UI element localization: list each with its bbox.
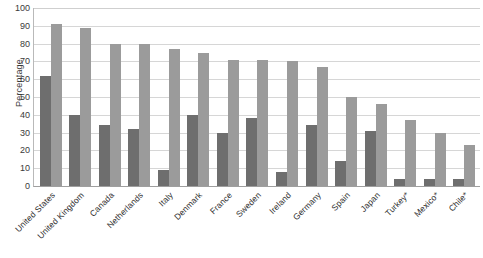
x-axis-label: Italy [157, 190, 175, 208]
bar [80, 28, 91, 186]
x-axis-label-slot: Chile* [448, 188, 478, 258]
plot-area [33, 8, 480, 187]
bar [169, 49, 180, 186]
bar [394, 179, 405, 186]
y-axis-tick-20: 20 [0, 146, 30, 155]
bar [424, 179, 435, 186]
bar [287, 61, 298, 186]
x-axis-label-slot: Turkey* [389, 188, 419, 258]
x-axis-label-slot: Italy [153, 188, 183, 258]
bar-group [361, 8, 391, 186]
x-axis-label: Ireland [267, 190, 293, 216]
x-axis-label-slot: Spain [330, 188, 360, 258]
bar-group [66, 8, 96, 186]
y-axis-tick-10: 10 [0, 164, 30, 173]
x-axis-tick-labels: United StatesUnited KingdomCanadaNetherl… [33, 188, 479, 258]
y-axis-tick-labels: 1009080706050403020100 [0, 0, 30, 186]
x-axis-label-slot: Ireland [271, 188, 301, 258]
bar [110, 44, 121, 186]
bar-group [331, 8, 361, 186]
bar [128, 129, 139, 186]
bar [198, 53, 209, 187]
bar-chart: Percentage 1009080706050403020100 United… [0, 0, 483, 258]
bar [51, 24, 62, 186]
bar [346, 97, 357, 186]
bar [306, 125, 317, 186]
bar [317, 67, 328, 186]
bar [228, 60, 239, 186]
bar [40, 76, 51, 186]
bar-group [36, 8, 66, 186]
bar-group [272, 8, 302, 186]
x-axis-label: France [208, 190, 234, 216]
x-axis-label: Chile* [447, 190, 471, 214]
bar [365, 131, 376, 186]
y-axis-tick-90: 90 [0, 21, 30, 30]
bar [187, 115, 198, 186]
y-axis-tick-40: 40 [0, 110, 30, 119]
bar-group [125, 8, 155, 186]
bar [158, 170, 169, 186]
bar [376, 104, 387, 186]
bar-group [184, 8, 214, 186]
bar-group [449, 8, 479, 186]
x-axis-label-slot: Germany [301, 188, 331, 258]
x-axis-label-slot: Denmark [183, 188, 213, 258]
y-axis-tick-60: 60 [0, 75, 30, 84]
bar [276, 172, 287, 186]
bar-group [420, 8, 450, 186]
bar [453, 179, 464, 186]
x-axis-label-slot: Mexico* [419, 188, 449, 258]
x-axis-label-slot: United Kingdom [65, 188, 95, 258]
y-axis-tick-30: 30 [0, 128, 30, 137]
bar [217, 133, 228, 186]
bar-group [390, 8, 420, 186]
bar [246, 118, 257, 186]
x-axis-label: Spain [329, 190, 352, 213]
y-axis-tick-70: 70 [0, 57, 30, 66]
bar [139, 44, 150, 186]
y-axis-tick-0: 0 [0, 182, 30, 191]
bar [435, 133, 446, 186]
x-axis-label: Japan [358, 190, 382, 214]
bar-group [95, 8, 125, 186]
y-axis-tick-50: 50 [0, 93, 30, 102]
bar-group [243, 8, 273, 186]
y-axis-tick-100: 100 [0, 4, 30, 13]
x-axis-label-slot: Japan [360, 188, 390, 258]
bars-layer [34, 8, 480, 186]
bar [257, 60, 268, 186]
y-axis-tick-80: 80 [0, 39, 30, 48]
x-axis-label-slot: Netherlands [124, 188, 154, 258]
bar-group [302, 8, 332, 186]
bar [335, 161, 346, 186]
bar-group [213, 8, 243, 186]
bar-group [154, 8, 184, 186]
x-axis-label-slot: Sweden [242, 188, 272, 258]
bar [464, 145, 475, 186]
bar [69, 115, 80, 186]
x-axis-label-slot: France [212, 188, 242, 258]
bar [405, 120, 416, 186]
bar [99, 125, 110, 186]
